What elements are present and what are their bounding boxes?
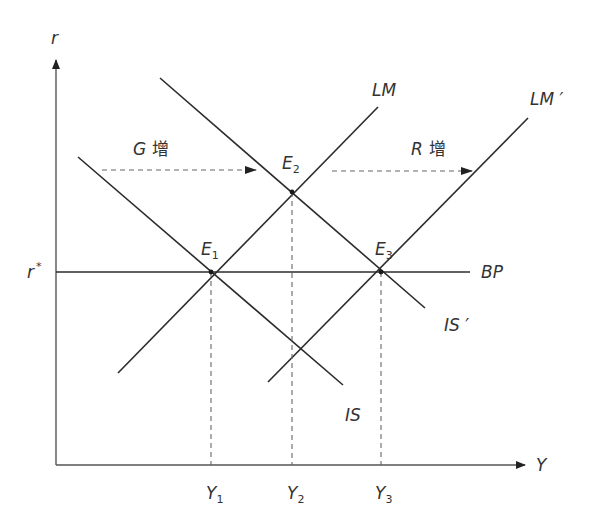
- lm-prime-label: LM ′: [530, 89, 564, 109]
- lm-label: LM: [372, 80, 396, 100]
- r-increase-label: R增: [411, 139, 446, 159]
- e1-label: E1: [201, 239, 219, 262]
- x-axis-label: Y: [536, 455, 548, 475]
- g-increase-label: G增: [133, 139, 169, 159]
- y3-tick-label: Y3: [375, 483, 392, 506]
- e2-label: E2: [282, 153, 300, 176]
- y2-tick-label: Y2: [287, 483, 304, 506]
- y1-tick-label: Y1: [206, 483, 223, 506]
- lm-prime-curve: [268, 118, 528, 382]
- is-label: IS: [345, 405, 361, 425]
- is-prime-label: IS ′: [444, 315, 469, 335]
- e3-label: E3: [375, 239, 393, 262]
- y-axis-label: r: [51, 28, 59, 48]
- is-lm-bp-diagram: r Y r* BP IS IS ′ LM LM ′ E1 E2 E3 Y1 Y2…: [0, 0, 593, 523]
- e3-point: [379, 270, 384, 275]
- e2-point: [290, 190, 295, 195]
- r-star-label: r*: [27, 260, 42, 282]
- e1-point: [209, 270, 214, 275]
- bp-label: BP: [481, 262, 504, 282]
